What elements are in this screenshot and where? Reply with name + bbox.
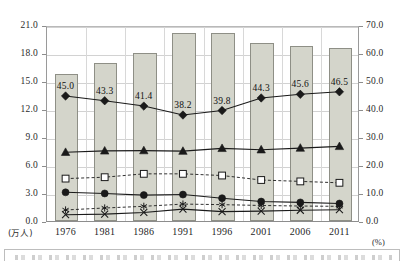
y-tick-right-70.0: 70.0 xyxy=(366,20,383,30)
data-label-diamond-series-1996: 39.8 xyxy=(213,96,230,106)
y-tickmark-left xyxy=(42,26,46,27)
legend-strip-cutoff xyxy=(4,249,400,261)
marker-open-square-series-1976 xyxy=(62,175,69,182)
marker-filled-circle-series-1986 xyxy=(140,192,147,199)
y-tickmark-right xyxy=(359,222,363,223)
marker-triangle-series-1996 xyxy=(218,144,226,152)
data-label-diamond-series-1986: 41.4 xyxy=(135,91,152,101)
x-tick-1986: 1986 xyxy=(124,226,163,237)
marker-open-square-series-2011 xyxy=(336,179,343,186)
y-tickmark-right xyxy=(359,166,363,167)
y-tick-right-40.0: 40.0 xyxy=(366,104,383,114)
marker-triangle-series-1986 xyxy=(140,146,148,154)
marker-diamond-series-2001 xyxy=(257,94,265,102)
marker-diamond-series-1996 xyxy=(218,106,226,114)
y-tickmark-right xyxy=(359,194,363,195)
y-tick-right-20.0: 20.0 xyxy=(366,160,383,170)
marker-open-square-series-1986 xyxy=(140,170,147,177)
marker-open-square-series-1996 xyxy=(219,172,226,179)
marker-diamond-series-1991 xyxy=(179,111,187,119)
y-tickmark-right xyxy=(359,82,363,83)
x-tick-2006: 2006 xyxy=(281,226,320,237)
marker-open-square-series-2001 xyxy=(258,177,265,184)
data-label-diamond-series-1981: 43.3 xyxy=(96,86,113,96)
legend-text-illegible xyxy=(15,255,393,260)
data-label-diamond-series-2011: 46.5 xyxy=(331,77,348,87)
y-tickmark-left xyxy=(42,222,46,223)
y-tick-right-0.0: 0.0 xyxy=(366,216,378,226)
marker-filled-circle-series-1976 xyxy=(62,189,69,196)
x-tick-1996: 1996 xyxy=(203,226,242,237)
x-tick-1976: 1976 xyxy=(46,226,85,237)
y-tick-left-9.0: 9.0 xyxy=(26,132,38,142)
marker-filled-circle-series-1981 xyxy=(101,190,108,197)
marker-filled-circle-series-1996 xyxy=(219,195,226,202)
marker-open-square-series-1991 xyxy=(180,170,187,177)
marker-diamond-series-1976 xyxy=(61,92,69,100)
y-tick-right-10.0: 10.0 xyxy=(366,188,383,198)
data-label-diamond-series-1976: 45.0 xyxy=(57,81,74,91)
y-tick-left-0.0: 0.0 xyxy=(26,216,38,226)
x-tick-1991: 1991 xyxy=(163,226,202,237)
y-tick-left-6.0: 6.0 xyxy=(26,160,38,170)
data-label-diamond-series-2001: 44.3 xyxy=(252,83,269,93)
x-tick-2001: 2001 xyxy=(242,226,281,237)
y-tickmark-left xyxy=(42,82,46,83)
marker-open-square-series-2006 xyxy=(297,178,304,185)
marker-triangle-series-2011 xyxy=(335,142,343,150)
y-tick-right-30.0: 30.0 xyxy=(366,132,383,142)
data-label-diamond-series-1991: 38.2 xyxy=(174,100,191,110)
y-tick-left-18.0: 18.0 xyxy=(21,48,38,58)
y-tickmark-left xyxy=(42,166,46,167)
marker-diamond-series-1981 xyxy=(100,97,108,105)
y-tickmark-left xyxy=(42,194,46,195)
y-tickmark-right xyxy=(359,54,363,55)
y-tick-left-21.0: 21.0 xyxy=(21,20,38,30)
marker-open-square-series-1981 xyxy=(101,174,108,181)
marker-diamond-series-2006 xyxy=(296,90,304,98)
y-tick-left-12.0: 12.0 xyxy=(21,104,38,114)
marker-diamond-series-1986 xyxy=(140,102,148,110)
y-tickmark-left xyxy=(42,110,46,111)
y-tick-right-60.0: 60.0 xyxy=(366,48,383,58)
y-axis-left-unit: (万人) xyxy=(8,226,33,238)
y-tickmark-right xyxy=(359,26,363,27)
y-tick-left-15.0: 15.0 xyxy=(21,76,38,86)
y-tickmark-left xyxy=(42,54,46,55)
marker-triangle-series-1981 xyxy=(100,146,108,154)
y-tick-left-3.0: 3.0 xyxy=(26,188,38,198)
x-tick-1981: 1981 xyxy=(85,226,124,237)
series-overlay xyxy=(46,26,359,222)
marker-diamond-series-2011 xyxy=(335,88,343,96)
y-tick-right-50.0: 50.0 xyxy=(366,76,383,86)
marker-filled-circle-series-1991 xyxy=(179,191,186,198)
y-tickmark-left xyxy=(42,138,46,139)
chart-container: 45.043.341.438.239.844.345.646.5 0.03.06… xyxy=(0,0,404,261)
y-axis-right-unit: (%) xyxy=(372,237,385,247)
data-label-diamond-series-2006: 45.6 xyxy=(292,79,309,89)
x-tick-2011: 2011 xyxy=(320,226,359,237)
y-tickmark-right xyxy=(359,138,363,139)
y-tickmark-right xyxy=(359,110,363,111)
